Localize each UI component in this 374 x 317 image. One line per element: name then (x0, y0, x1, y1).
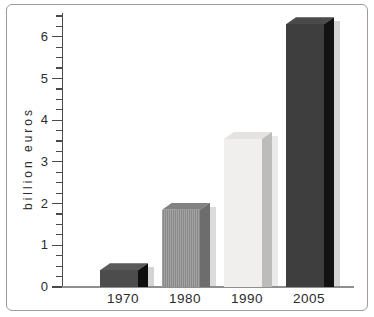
bar-side-face (324, 17, 334, 287)
y-major-tick (52, 203, 62, 204)
x-tick-label: 1970 (97, 291, 149, 306)
y-minor-tick (56, 99, 63, 100)
y-minor-tick (56, 151, 63, 152)
y-minor-tick (56, 67, 63, 68)
y-tick-label: 4 (26, 112, 48, 127)
y-major-tick (52, 78, 62, 79)
y-minor-tick (56, 172, 63, 173)
bar-front-face (162, 210, 200, 287)
bar-front-face (224, 139, 262, 287)
x-tick-label: 1980 (159, 291, 211, 306)
y-tick-label: 6 (26, 29, 48, 44)
y-minor-tick (56, 88, 63, 89)
y-minor-tick (56, 276, 63, 277)
x-tick-label: 1990 (221, 291, 273, 306)
y-minor-tick (56, 193, 63, 194)
y-minor-tick (56, 47, 63, 48)
bar-side-face (262, 132, 272, 287)
y-minor-tick (56, 213, 63, 214)
y-minor-tick (56, 234, 63, 235)
bar-front-face (100, 270, 138, 287)
y-major-tick (52, 120, 62, 121)
y-tick-label: 5 (26, 71, 48, 86)
y-major-tick (52, 245, 62, 246)
y-tick-label: 1 (26, 237, 48, 252)
y-axis-line (62, 13, 63, 287)
y-minor-tick (56, 140, 63, 141)
y-minor-tick (56, 182, 63, 183)
y-minor-tick (56, 266, 63, 267)
y-minor-tick (56, 224, 63, 225)
bar-side-face (200, 203, 210, 287)
y-major-tick (52, 286, 62, 287)
y-minor-tick (56, 109, 63, 110)
y-minor-tick (56, 255, 63, 256)
y-minor-tick (56, 26, 63, 27)
bar-front-face (286, 24, 324, 287)
y-minor-tick (56, 130, 63, 131)
y-minor-tick (56, 57, 63, 58)
y-major-tick (52, 36, 62, 37)
y-tick-label: 2 (26, 196, 48, 211)
y-major-tick (52, 161, 62, 162)
y-tick-label: 0 (26, 279, 48, 294)
y-tick-label: 3 (26, 154, 48, 169)
y-minor-tick (56, 15, 63, 16)
x-tick-label: 2005 (283, 291, 335, 306)
bar-chart-figure: billion euros 0123456 1970198019902005 (0, 0, 374, 317)
